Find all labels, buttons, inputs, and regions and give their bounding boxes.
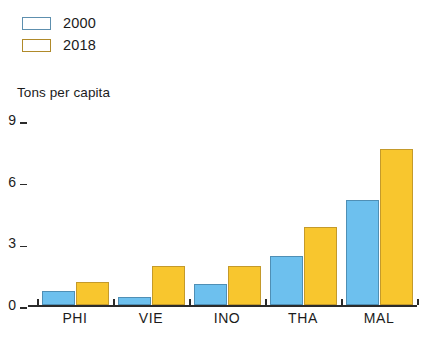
axis-tick-mark-icon [417, 299, 419, 305]
bar-group [341, 120, 417, 305]
y-axis-title: Tons per capita [17, 85, 110, 100]
bar-group [265, 120, 341, 305]
x-axis-category-label: PHI [37, 310, 113, 326]
bar-groups [37, 120, 417, 305]
legend-label-2000: 2000 [63, 16, 96, 31]
y-tick-mark-icon [20, 307, 27, 309]
legend-swatch-2000-icon [22, 17, 51, 30]
y-tick-label: 9 [0, 112, 16, 128]
bar [304, 227, 337, 305]
bar [118, 297, 151, 305]
x-axis-labels: PHIVIEINOTHAMAL [37, 310, 417, 326]
bar [346, 200, 379, 305]
x-axis-line [28, 305, 417, 307]
bar [194, 284, 227, 305]
y-tick: 6 [0, 174, 36, 190]
bar [228, 266, 261, 305]
legend-swatch-2018-icon [22, 39, 51, 52]
y-tick-label: 6 [0, 174, 16, 190]
y-tick-mark-icon [20, 246, 27, 248]
bar [270, 256, 303, 305]
x-axis-category-label: VIE [113, 310, 189, 326]
y-tick-mark-icon [20, 122, 27, 124]
bar [42, 291, 75, 305]
bar [76, 282, 109, 305]
bar-group [113, 120, 189, 305]
bar [380, 149, 413, 305]
x-axis-category-label: THA [265, 310, 341, 326]
bar-group [37, 120, 113, 305]
legend-item-2018: 2018 [22, 36, 96, 55]
y-tick-label: 3 [0, 235, 16, 251]
y-tick-mark-icon [20, 184, 27, 186]
plot-area: 0369 [37, 120, 417, 305]
y-tick: 3 [0, 235, 36, 251]
y-tick-label: 0 [0, 297, 16, 313]
y-tick: 9 [0, 112, 36, 128]
bar [152, 266, 185, 305]
y-tick: 0 [0, 297, 36, 313]
bar-group [189, 120, 265, 305]
x-axis-category-label: MAL [341, 310, 417, 326]
x-axis-category-label: INO [189, 310, 265, 326]
legend-item-2000: 2000 [22, 14, 96, 33]
chart-legend: 2000 2018 [22, 14, 96, 58]
bar-chart: 2000 2018 Tons per capita 0369 PHIVIEINO… [0, 0, 424, 338]
legend-label-2018: 2018 [63, 38, 96, 53]
